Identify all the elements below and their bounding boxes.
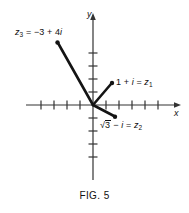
label-z2: √3 − i = z2 [100, 120, 142, 132]
vector-z1 [93, 81, 114, 105]
label-z2-subscript: 2 [139, 124, 143, 131]
label-z2-expression: − [111, 120, 122, 130]
label-z3-imaginary-unit: i [60, 27, 62, 37]
x-axis-label: x [174, 108, 179, 118]
label-z2-equals: = [123, 120, 134, 130]
label-z1-expression: 1 + [116, 77, 132, 87]
x-axis-arrowhead [174, 102, 181, 108]
label-z3: z3 = −3 + 4i [15, 28, 62, 39]
label-z3-expression: = −3 + 4 [23, 27, 60, 37]
label-z1-equals: = [134, 77, 145, 87]
vector-z3 [55, 40, 93, 105]
label-z1-subscript: 1 [149, 81, 153, 88]
figure-container: z3 = −3 + 4i 1 + i = z1 √3 − i = z2 y x … [0, 0, 189, 213]
point-marker-z3 [55, 40, 59, 44]
y-axis [90, 13, 96, 180]
point-marker-z1 [110, 81, 114, 85]
vector-z2 [93, 105, 117, 119]
label-z1: 1 + i = z1 [116, 78, 153, 89]
figure-caption: FIG. 5 [0, 190, 189, 201]
y-axis-label: y [87, 9, 92, 19]
argand-diagram-plot: z3 = −3 + 4i 1 + i = z1 √3 − i = z2 y x [0, 0, 189, 190]
point-marker-z2 [113, 115, 117, 119]
